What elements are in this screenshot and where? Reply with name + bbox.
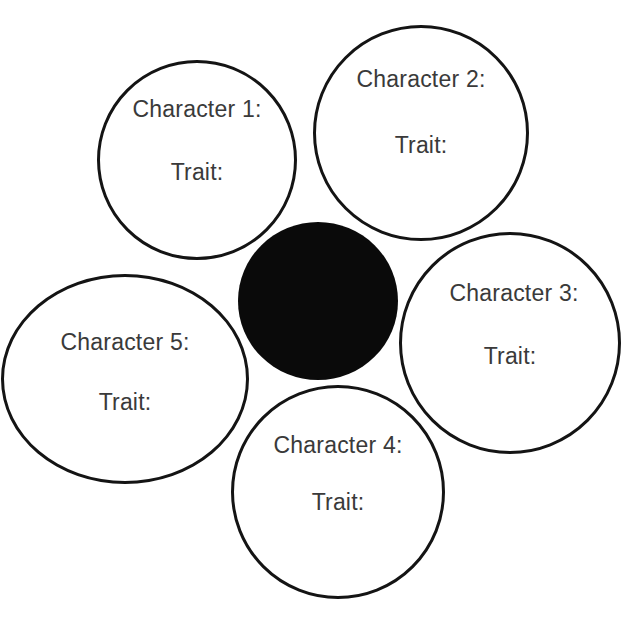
character-3-trait-label: Trait: (402, 343, 618, 370)
character-1-trait-label: Trait: (100, 159, 294, 186)
center-circle (238, 222, 398, 380)
character-2-trait-label: Trait: (316, 132, 526, 159)
petal-character-4: Character 4: Trait: (231, 385, 445, 599)
character-5-label: Character 5: (4, 329, 246, 356)
petal-character-3: Character 3: Trait: (399, 232, 621, 454)
petal-character-1: Character 1: Trait: (97, 60, 297, 260)
character-4-trait-label: Trait: (234, 489, 442, 516)
character-1-label: Character 1: (100, 96, 294, 123)
character-4-label: Character 4: (234, 432, 442, 459)
character-2-label: Character 2: (316, 66, 526, 93)
petal-character-5: Character 5: Trait: (1, 274, 249, 484)
character-3-label: Character 3: (410, 280, 618, 307)
character-trait-diagram: Character 1: Trait: Character 2: Trait: … (0, 0, 643, 626)
character-5-trait-label: Trait: (4, 389, 246, 416)
petal-character-2: Character 2: Trait: (313, 25, 529, 241)
